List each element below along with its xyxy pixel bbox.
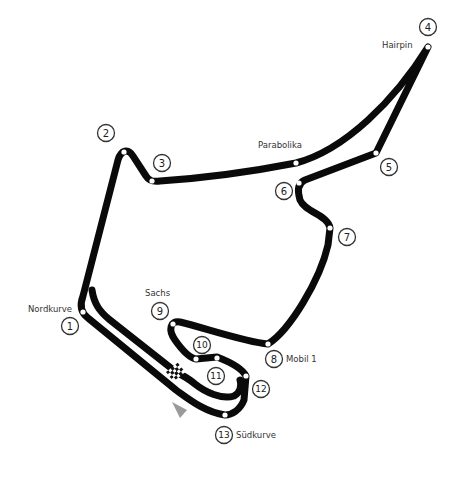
svg-text:3: 3 <box>159 158 165 169</box>
label-mobil-1: Mobil 1 <box>286 354 317 364</box>
corner-dots <box>80 44 430 417</box>
corner-dot-4 <box>425 44 430 49</box>
svg-text:7: 7 <box>344 232 350 243</box>
corner-marker-13: 13 <box>216 427 233 444</box>
corner-dot-3 <box>149 178 154 183</box>
corner-marker-5: 5 <box>381 159 398 176</box>
corner-dot-9 <box>170 321 175 326</box>
corner-dot-6 <box>296 180 301 185</box>
corner-dot-5 <box>373 150 378 155</box>
corner-marker-11: 11 <box>208 368 225 385</box>
parabolika-dot <box>293 160 298 165</box>
svg-text:6: 6 <box>281 186 287 197</box>
svg-text:11: 11 <box>210 371 221 381</box>
corner-marker-12: 12 <box>253 381 270 398</box>
corner-marker-9: 9 <box>152 303 169 320</box>
label-sachs: Sachs <box>145 288 171 298</box>
label-sudkurve: Südkurve <box>236 430 276 440</box>
direction-arrow-icon <box>172 402 187 418</box>
corner-dot-7 <box>327 225 332 230</box>
corner-marker-10: 10 <box>194 337 211 354</box>
circuit-map: 1 2 3 4 5 6 7 8 9 10 11 12 <box>0 0 471 477</box>
corner-marker-7: 7 <box>339 229 356 246</box>
svg-text:9: 9 <box>157 306 163 317</box>
corner-dot-13 <box>222 412 227 417</box>
corner-marker-8: 8 <box>266 351 283 368</box>
label-hairpin: Hairpin <box>382 40 413 50</box>
svg-text:8: 8 <box>271 354 277 365</box>
svg-text:2: 2 <box>103 128 109 139</box>
corner-dot-10 <box>193 356 198 361</box>
svg-text:1: 1 <box>67 321 73 332</box>
svg-text:5: 5 <box>386 162 392 173</box>
label-nordkurve: Nordkurve <box>28 304 72 314</box>
track-main <box>81 47 428 415</box>
corner-marker-2: 2 <box>98 125 115 142</box>
corner-dot-11 <box>214 355 219 360</box>
svg-text:10: 10 <box>196 340 208 350</box>
corner-marker-3: 3 <box>154 155 171 172</box>
corner-marker-1: 1 <box>62 318 79 335</box>
corner-dot-12 <box>243 373 248 378</box>
corner-marker-6: 6 <box>276 183 293 200</box>
corner-dot-2 <box>121 149 126 154</box>
svg-text:13: 13 <box>218 430 229 440</box>
svg-text:12: 12 <box>255 384 266 394</box>
corner-dot-1 <box>80 309 85 314</box>
corner-marker-4: 4 <box>420 19 437 36</box>
label-parabolika: Parabolika <box>258 140 302 150</box>
corner-dot-8 <box>265 341 270 346</box>
svg-text:4: 4 <box>425 22 431 33</box>
